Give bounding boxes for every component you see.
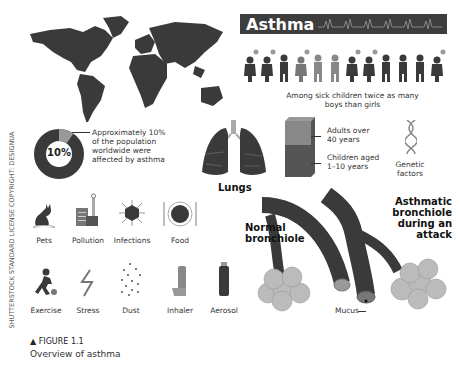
trigger-dust-label: Dust: [115, 306, 147, 315]
dust-icon: [118, 262, 144, 296]
prevalence-text: Approximately 10% of the population worl…: [92, 128, 165, 164]
heartbeat-line-icon: [318, 17, 443, 31]
trigger-infections-label: Infections: [110, 236, 154, 245]
figure-caption: Overview of asthma: [30, 349, 121, 359]
lungs-icon: [198, 120, 270, 180]
prevalence-connector: [72, 132, 90, 133]
inhaler-icon: [170, 264, 190, 298]
prevalence-donut: 10%: [33, 128, 85, 180]
pets-icon: [32, 202, 56, 228]
asthmatic-bronchiole-label: Asthmatic bronchiole during an attack: [380, 196, 452, 240]
children-caption: Among sick children twice as many boys t…: [260, 91, 445, 109]
food-icon: [160, 200, 200, 228]
pollution-icon: [72, 192, 102, 228]
trigger-pets-label: Pets: [28, 236, 60, 245]
trigger-stress-label: Stress: [72, 306, 104, 315]
aerosol-icon: [217, 262, 231, 298]
trigger-food-label: Food: [164, 236, 196, 245]
triangle-up-icon: ▲: [30, 337, 36, 346]
page-title: Asthma: [246, 15, 314, 34]
world-map: [25, 12, 225, 122]
image-credit: SHUTTERSTOCK STANDARD LICENSE COPYRIGHT:…: [8, 130, 16, 330]
genetic-label: Genetic factors: [390, 160, 430, 178]
prevalence-value: 10%: [33, 147, 85, 158]
normal-bronchiole-label: Normal bronchiole: [245, 222, 305, 244]
mucus-connector: [358, 311, 366, 312]
children-connector: [311, 163, 321, 164]
trigger-inhaler-label: Inhaler: [162, 306, 198, 315]
trigger-exercise-label: Exercise: [26, 306, 66, 315]
children-row: [240, 46, 455, 82]
trigger-aerosol-label: Aerosol: [204, 306, 244, 315]
adults-connector: [311, 136, 321, 137]
trigger-pollution-label: Pollution: [68, 236, 108, 245]
adults-label: Adults over 40 years: [327, 126, 370, 144]
infections-icon: [117, 198, 147, 228]
age-bar: [285, 117, 315, 177]
children-label: Children aged 1–10 years: [327, 153, 379, 171]
figure-label: ▲ FIGURE 1.1: [30, 337, 84, 346]
mucus-label: Mucus: [335, 306, 359, 315]
dna-icon: [405, 120, 417, 154]
stress-icon: [78, 268, 98, 298]
title-banner: Asthma: [240, 14, 447, 34]
exercise-icon: [34, 268, 58, 296]
